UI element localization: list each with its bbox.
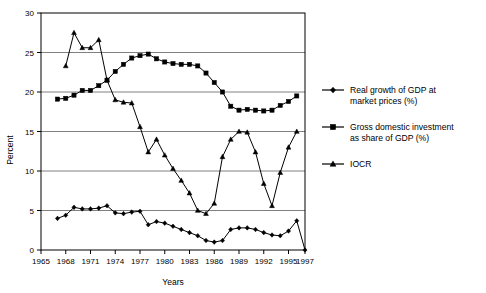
- x-tick-label: 1965: [32, 257, 50, 266]
- data-point-triangle: [162, 153, 167, 157]
- data-point-square: [212, 80, 216, 84]
- data-point-square: [171, 61, 175, 65]
- data-point-square: [278, 103, 282, 107]
- data-point-square: [204, 71, 208, 75]
- y-tick-label: 15: [25, 128, 34, 137]
- series-line: [58, 54, 297, 111]
- legend-label: Real growth of GDP atmarket prices (%): [350, 85, 436, 106]
- data-point-triangle: [261, 181, 266, 185]
- data-point-square: [121, 62, 125, 66]
- data-point-square: [229, 104, 233, 108]
- data-point-triangle: [154, 137, 159, 141]
- data-point-square: [88, 88, 92, 92]
- data-point-square: [113, 69, 117, 73]
- x-tick-label: 1989: [230, 257, 248, 266]
- data-point-diamond: [270, 233, 274, 238]
- x-axis-label: Years: [162, 277, 183, 287]
- data-point-diamond: [253, 227, 257, 232]
- x-axis-ticks: 1965196819711974197719801983198619891992…: [32, 250, 314, 266]
- data-point-diamond: [278, 233, 282, 238]
- data-point-diamond: [154, 219, 158, 224]
- y-axis-label: Percent: [5, 135, 15, 165]
- x-tick-label: 1971: [82, 257, 100, 266]
- line-chart: 051015202530 196519681971197419771980198…: [0, 0, 486, 293]
- data-point-square: [138, 54, 142, 58]
- legend-item-0: Real growth of GDP atmarket prices (%): [322, 85, 436, 106]
- data-point-square: [146, 52, 150, 56]
- data-point-square: [72, 93, 76, 97]
- data-point-square: [262, 109, 266, 113]
- x-tick-label: 1986: [205, 257, 223, 266]
- data-point-diamond: [262, 230, 266, 235]
- x-tick-label: 1983: [181, 257, 199, 266]
- data-point-diamond: [179, 227, 183, 232]
- legend-label: IOCR: [350, 159, 371, 169]
- data-point-triangle: [113, 97, 118, 101]
- data-point-square: [286, 99, 290, 103]
- data-point-diamond: [163, 221, 167, 226]
- data-point-diamond: [97, 206, 101, 211]
- data-point-triangle: [270, 203, 275, 207]
- y-tick-label: 5: [30, 207, 35, 216]
- data-point-triangle: [63, 63, 68, 67]
- data-point-diamond: [121, 211, 125, 216]
- x-tick-label: 1968: [57, 257, 75, 266]
- data-point-square: [187, 62, 191, 66]
- data-point-diamond: [212, 240, 216, 245]
- y-tick-label: 10: [25, 167, 34, 176]
- data-point-square: [237, 108, 241, 112]
- legend-item-2: IOCR: [322, 159, 371, 169]
- legend-marker-diamond: [330, 87, 335, 93]
- data-point-diamond: [196, 233, 200, 238]
- data-point-triangle: [220, 154, 225, 158]
- data-point-diamond: [204, 238, 208, 243]
- data-series: [55, 30, 307, 252]
- data-point-square: [154, 57, 158, 61]
- x-tick-label: 1974: [106, 257, 124, 266]
- y-tick-label: 0: [30, 246, 35, 255]
- data-point-diamond: [171, 224, 175, 229]
- legend-marker-square: [330, 124, 335, 129]
- series-line: [66, 33, 297, 214]
- x-tick-label: 1980: [156, 257, 174, 266]
- legend: Real growth of GDP atmarket prices (%)Gr…: [322, 85, 454, 169]
- data-point-square: [295, 94, 299, 98]
- data-point-diamond: [187, 230, 191, 235]
- data-point-triangle: [96, 37, 101, 41]
- data-point-square: [196, 64, 200, 68]
- legend-label: Gross domestic investmentas share of GDP…: [350, 122, 454, 143]
- data-point-diamond: [303, 248, 307, 253]
- data-point-square: [55, 97, 59, 101]
- data-point-square: [220, 90, 224, 94]
- data-point-triangle: [138, 124, 143, 128]
- data-point-square: [245, 107, 249, 111]
- data-point-square: [270, 108, 274, 112]
- data-point-triangle: [253, 150, 258, 154]
- x-tick-label: 1977: [131, 257, 149, 266]
- data-point-diamond: [237, 226, 241, 231]
- x-tick-label: 1992: [255, 257, 273, 266]
- data-point-diamond: [55, 216, 59, 221]
- data-point-diamond: [245, 226, 249, 231]
- data-point-square: [130, 56, 134, 60]
- data-point-square: [64, 96, 68, 100]
- series-2: [63, 30, 299, 215]
- legend-item-1: Gross domestic investmentas share of GDP…: [322, 122, 454, 143]
- data-point-triangle: [212, 201, 217, 205]
- series-1: [55, 52, 298, 113]
- data-point-square: [80, 88, 84, 92]
- data-point-square: [253, 108, 257, 112]
- y-tick-label: 30: [25, 9, 34, 18]
- y-axis-ticks: 051015202530: [25, 9, 41, 255]
- data-point-square: [179, 62, 183, 66]
- x-tick-label: 1997: [296, 257, 314, 266]
- data-point-square: [97, 84, 101, 88]
- y-tick-label: 25: [25, 49, 34, 58]
- chart-figure: 051015202530 196519681971197419771980198…: [0, 0, 486, 293]
- data-point-square: [163, 60, 167, 64]
- y-tick-label: 20: [25, 88, 34, 97]
- data-point-triangle: [72, 30, 77, 34]
- data-point-triangle: [286, 145, 291, 149]
